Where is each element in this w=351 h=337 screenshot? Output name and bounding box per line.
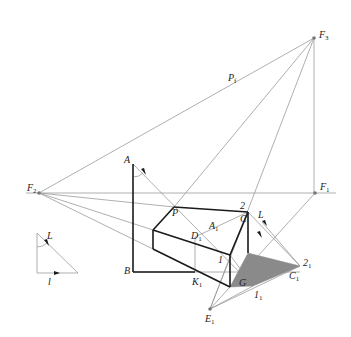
f2-point [37,191,41,195]
small-triangle-hyp [37,233,78,273]
e1-11-line [210,286,253,309]
label-2-1: 21 [303,258,312,270]
label-e1: E1 [205,314,215,326]
p-left-roof [153,207,174,230]
arrow-small-l-base [54,271,60,275]
label-pf: Pf [228,73,236,85]
f3-p-line [174,38,314,207]
label-small-lower-l: l [48,277,51,287]
label-l: L [258,210,264,220]
label-f2: F2 [27,183,37,195]
small-angle-arc [37,243,47,247]
f2-bottom-line [39,193,153,249]
label-f3: F3 [319,30,329,42]
label-c: C [240,214,247,224]
pf-line [39,38,314,193]
label-d1: D1 [191,231,202,243]
arrow-l2 [257,231,262,238]
f1-point [313,191,317,195]
label-g: G [239,278,246,288]
f2-p-line [39,193,174,207]
label-f1: F1 [320,182,330,194]
f3-point [312,36,316,40]
label-b: B [124,266,130,276]
label-small-l: L [47,231,53,241]
e1-point [208,307,212,311]
perspective-diagram: F3 Pf F2 F1 A B P 2 C L A1 D1 1 K1 G 21 … [0,0,351,337]
a-angle-arc [133,173,143,177]
label-1: 1 [218,255,223,265]
label-1-1: 11 [254,290,263,302]
diagram-lines [0,0,351,337]
a-ray [133,164,253,286]
label-2: 2 [240,201,245,211]
label-c1: C1 [289,271,299,283]
label-k1: K1 [192,277,202,289]
ridge-p-c [174,207,248,212]
label-p: P [172,208,178,218]
label-a1: A1 [209,221,219,233]
label-a: A [124,155,130,165]
